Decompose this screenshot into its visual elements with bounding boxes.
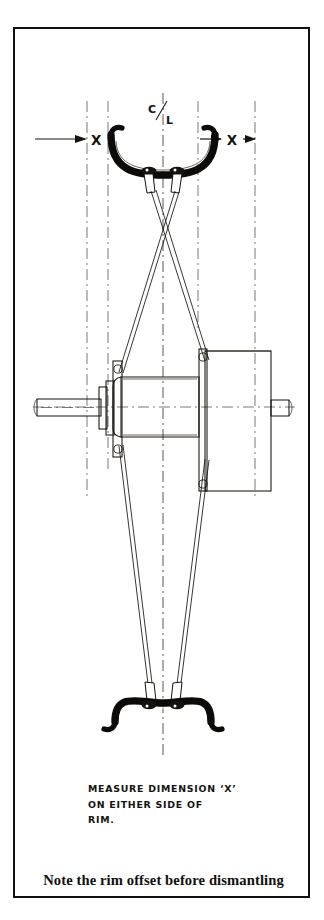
nipple-bottom-right	[170, 701, 185, 709]
sprocket-block	[205, 351, 271, 491]
flange-eyelet-left-top	[114, 365, 122, 373]
nipple-top-right-eye	[174, 169, 177, 172]
rim-bottom-hook-right	[211, 721, 222, 730]
hub-flange-right	[199, 349, 207, 491]
spoke-lower-right-edge-b	[181, 460, 209, 683]
dimension-label-left: X	[91, 132, 102, 148]
spoke-lower-right-edge-a	[177, 459, 205, 684]
spoke-upper-right-edge-b	[123, 192, 179, 373]
rim-top-hook-left	[111, 127, 122, 136]
dim-arrowhead-left	[75, 135, 87, 143]
rim-bottom-hook-left	[104, 721, 115, 730]
spoke-lower-left-edge-a	[119, 446, 148, 684]
centerline-label-c: C	[148, 103, 156, 116]
spokes-lower	[119, 445, 209, 684]
spoke-upper-left-edge-a	[151, 191, 205, 361]
rim-top-hook-right	[204, 127, 215, 136]
nipple-barrel-top-right	[171, 174, 182, 193]
wheel-offset-drawing: .ln { fill:none; stroke:#15130f; stroke-…	[15, 29, 312, 900]
spoke-nipple-barrels-bottom	[145, 682, 182, 701]
nipple-top-left-eye	[146, 169, 149, 172]
nipple-bottom-right-eye	[174, 705, 177, 708]
nipple-bottom-left	[142, 701, 157, 709]
reference-lines	[33, 93, 295, 759]
centerline-symbol: C L	[148, 101, 173, 127]
nipple-barrel-top-left	[144, 174, 155, 193]
flange-eyelet-left-bottom	[114, 445, 122, 453]
wheel-diagram-svg: .ln { fill:none; stroke:#15130f; stroke-…	[15, 29, 312, 900]
figure-caption: Note the rim offset before dismantling	[15, 872, 312, 889]
axle-right	[271, 400, 289, 416]
spoke-upper-right-edge-a	[119, 191, 175, 372]
spoke-upper-left-edge-b	[156, 190, 209, 360]
dim-arrowhead-outer-right	[245, 135, 256, 143]
figure-frame: .ln { fill:none; stroke:#15130f; stroke-…	[13, 27, 310, 898]
nipple-bottom-left-eye	[146, 705, 149, 708]
dimension-band-top: X X	[35, 132, 256, 148]
figure-page: .ln { fill:none; stroke:#15130f; stroke-…	[0, 0, 324, 920]
spokes-upper	[119, 190, 209, 373]
centerline-label-l: L	[166, 114, 173, 127]
measure-dimension-note: MEASURE DIMENSION ‘X’ ON EITHER SIDE OF …	[88, 781, 278, 828]
spoke-lower-left-edge-b	[123, 445, 152, 683]
figure-title: Rim offset / dishing measurement diagram	[0, 0, 1, 1]
dimension-label-right: X	[227, 132, 238, 148]
